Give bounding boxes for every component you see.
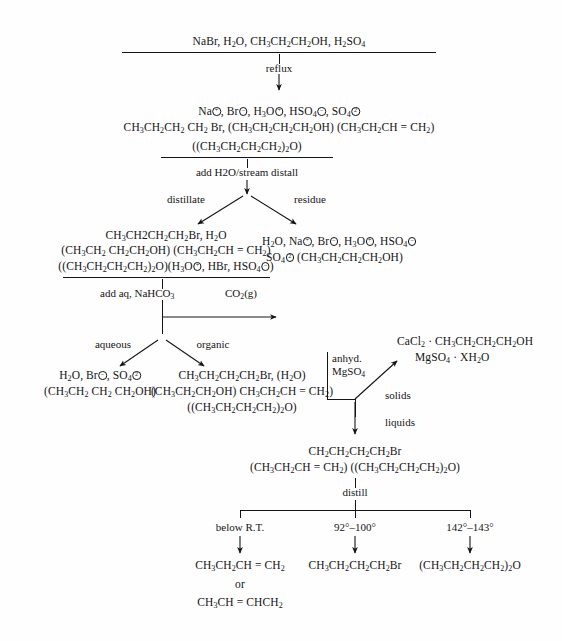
steam-distill-label: add H2O/stream distall xyxy=(196,166,298,179)
residue-branch-label: residue xyxy=(294,193,326,206)
fraction-3-temperature: 142°–143° xyxy=(446,521,493,534)
connector-overlay xyxy=(0,0,562,641)
liquids-label: liquids xyxy=(385,416,415,429)
dried-liquid-line1: CH2CH2CH2CH2Br xyxy=(309,444,402,459)
drying-left-rail xyxy=(327,352,328,400)
nahco3-label: add aq, NaHCO3 xyxy=(100,287,174,300)
reactants-line1: NaBr, H2O, CH3CH2CH2OH, H2SO4 xyxy=(193,35,366,47)
mixture-underline xyxy=(161,157,333,158)
fraction-2-product-line1: CH3CH2CH2CH2Br xyxy=(309,558,402,573)
fraction-2-temperature: 92°–100° xyxy=(334,521,376,534)
fraction-drop-1 xyxy=(240,510,241,518)
distillate-underline xyxy=(63,277,270,278)
fraction-1-product-line1: CH3CH2CH = CH2 xyxy=(195,558,285,573)
fraction-drop-2 xyxy=(355,510,356,518)
reactants-underline xyxy=(122,52,436,53)
fraction-1-temperature: below R.T. xyxy=(216,521,264,534)
arrow-residue xyxy=(251,196,296,224)
mixture-line2: CH3CH2CH2 CH2 Br, (CH3CH2CH2CH2OH) (CH3C… xyxy=(124,120,435,135)
solids-product-line2: MgSO4 · XH2O xyxy=(415,350,489,365)
distillate-line2: (CH3CH2 CH2CH2OH) (CH3CH2CH = CH2) xyxy=(61,243,270,258)
solids-label: solids xyxy=(385,389,411,402)
fraction-3-product-line1: (CH3CH2CH2CH2)2O xyxy=(419,558,521,573)
residue-line2: SO42 (CH3CH2CH2CH2OH) xyxy=(266,250,403,265)
aqueous-line2: (CH3CH2 CH2 CH2OH) xyxy=(44,384,156,399)
distillate-branch-label: distillate xyxy=(167,193,205,206)
aqueous-line1: H2O, Br–, SO42 xyxy=(59,368,141,383)
organic-branch-label: organic xyxy=(197,338,230,351)
drying-cross-rail xyxy=(327,399,356,400)
mixture-line1: Na+, Br–, H3O+, HSO4–, SO42 xyxy=(198,104,360,119)
flowchart-canvas: NaBr, H2O, CH3CH2CH2OH, H2SO4 reflux Na+… xyxy=(0,0,562,641)
organic-line3: ((CH3CH2CH2CH2)2O) xyxy=(187,400,297,415)
distill-label: distill xyxy=(342,486,367,499)
drying-down-rail xyxy=(355,399,356,417)
co2-label: CO2(g) xyxy=(225,287,257,300)
fraction-1-product-line3: CH3CH = CHCH2 xyxy=(197,595,283,610)
drying-agent-line1: anhyd. xyxy=(332,352,362,365)
reactants-node: NaBr, H2O, CH3CH2CH2OH, H2SO4 xyxy=(193,34,366,49)
organic-line2: (CH3CH2CH2OH) CH3CH2CH = CH2) xyxy=(151,384,333,399)
distillate-line1: CH3CH2CH2CH2Br, H2O xyxy=(105,228,226,243)
stem-nahco3-lower xyxy=(162,300,163,334)
reflux-label: reflux xyxy=(266,62,292,75)
fraction-drop-3 xyxy=(470,510,471,518)
mixture-line3: ((CH3CH2CH2CH2)2O) xyxy=(192,139,302,154)
organic-line1: CH3CH2CH2CH2Br, (H2O) xyxy=(178,368,305,383)
fraction-1-product-line2: or xyxy=(235,577,245,592)
solids-product-line1: CaCl2 · CH3CH2CH2CH2OH xyxy=(397,334,533,349)
distillate-line3: ((CH3CH2CH2CH2)2O)(H3O+, HBr, HSO4–) xyxy=(58,259,273,274)
aqueous-branch-label: aqueous xyxy=(95,338,131,351)
drying-agent-line2: MgSO4 xyxy=(332,365,365,378)
dried-liquid-line2: (CH3CH2CH = CH2) ((CH3CH2CH2CH2)2O) xyxy=(250,460,460,475)
residue-line1: H2O, Na+, Br–, H3O+, HSO4– xyxy=(262,234,416,249)
